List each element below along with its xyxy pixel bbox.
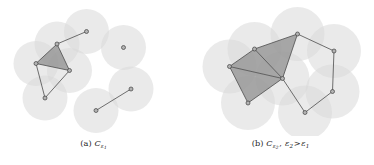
data-point-p1 <box>55 42 59 46</box>
data-point-p8 <box>94 109 98 113</box>
data-point-q2 <box>253 47 257 51</box>
panel-a-caption: (a) Cε1 <box>0 138 187 149</box>
data-point-q5 <box>296 32 300 36</box>
data-point-q1 <box>228 65 232 69</box>
data-point-q7 <box>331 90 335 94</box>
panel-b-diagram <box>187 0 374 136</box>
data-point-q6 <box>332 49 336 53</box>
data-point-q3 <box>281 77 285 81</box>
data-point-p5 <box>85 30 89 34</box>
panel-b-caption-rhs-index: 1 <box>306 143 310 149</box>
panel-b-caption: (b) Cε2, ε2>ε1 <box>187 138 374 149</box>
panel-a-caption-index: 1 <box>104 145 107 150</box>
panel-a-discs <box>14 9 154 133</box>
data-point-p4 <box>43 96 47 100</box>
figure-panel-b: (b) Cε2, ε2>ε1 <box>187 0 374 165</box>
data-point-q8 <box>303 111 307 115</box>
data-point-q4 <box>246 101 250 105</box>
figure-root: (a) Cε1 (b) Cε2, ε2>ε1 <box>0 0 374 165</box>
panel-a-caption-tag: (a) <box>80 138 92 148</box>
data-point-p2 <box>34 62 38 66</box>
data-point-p6 <box>122 46 126 50</box>
data-point-p3 <box>68 69 72 73</box>
figure-panel-a: (a) Cε1 <box>0 0 187 165</box>
panel-b-caption-relation: > <box>293 138 301 148</box>
panel-b-caption-tag: (b) <box>252 138 264 148</box>
data-point-p7 <box>129 87 133 91</box>
panel-a-diagram <box>0 0 187 136</box>
